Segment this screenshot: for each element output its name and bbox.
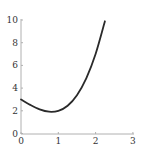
y-axis: 0246810 xyxy=(7,15,23,139)
y-tick-label: 6 xyxy=(12,60,18,70)
y-tick-label: 4 xyxy=(12,83,18,93)
y-tick-label: 2 xyxy=(12,106,18,116)
x-tick-label: 1 xyxy=(55,136,61,146)
line-chart: 0246810 0123 xyxy=(0,0,147,151)
x-tick-label: 0 xyxy=(18,136,24,146)
x-tick-label: 2 xyxy=(93,136,99,146)
y-tick-label: 8 xyxy=(12,38,18,48)
y-tick-label: 10 xyxy=(7,15,19,25)
data-curve xyxy=(21,21,105,112)
x-tick-label: 3 xyxy=(130,136,136,146)
x-axis: 0123 xyxy=(18,132,136,146)
